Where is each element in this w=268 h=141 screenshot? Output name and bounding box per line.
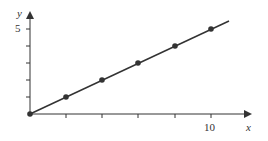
- x-axis-arrow: [244, 110, 252, 118]
- chart: [0, 0, 268, 141]
- x-ticks: [66, 114, 211, 118]
- data-line: [30, 21, 229, 114]
- y-axis-arrow: [26, 11, 34, 19]
- x-axis-label: x: [246, 121, 251, 133]
- y-ticks: [26, 29, 30, 97]
- y-tick-label-5: 5: [15, 22, 21, 34]
- y-axis-label: y: [17, 7, 22, 19]
- x-tick-label-10: 10: [204, 121, 215, 133]
